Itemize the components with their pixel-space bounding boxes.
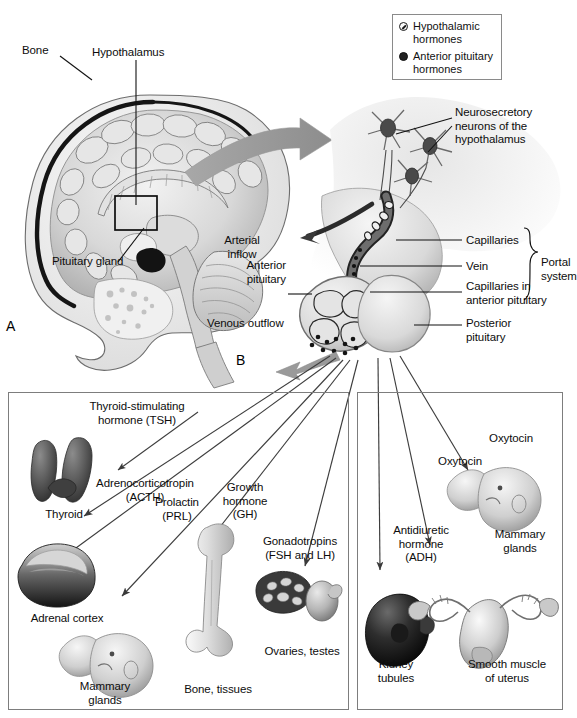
label-arterial-inflow: Arterial inflow xyxy=(211,234,273,261)
venous-outflow-arrow xyxy=(276,352,340,380)
label-adh: Antidiuretic hormone (ADH) xyxy=(381,524,461,565)
label-prl: Prolactin (PRL) xyxy=(145,496,209,523)
legend-label-hypothalamic: Hypothalamic hormones xyxy=(413,20,497,45)
label-kidney-tubules: Kidney tubules xyxy=(363,658,429,685)
label-pituitary-gland: Pituitary gland xyxy=(52,255,123,269)
label-portal-system: Portal system xyxy=(541,256,577,283)
label-neurosecretory-neurons: Neurosecretory neurons of the hypothalam… xyxy=(455,106,532,147)
panel-letter-a: A xyxy=(6,318,15,334)
label-gh: Growth hormone (GH) xyxy=(215,481,275,522)
label-vein: Vein xyxy=(466,260,488,274)
label-tsh: Thyroid-stimulating hormone (TSH) xyxy=(62,400,212,427)
label-capillaries: Capillaries xyxy=(466,234,519,248)
legend-label-anterior-pituitary: Anterior pituitary hormones xyxy=(413,50,497,75)
label-smooth-muscle-uterus: Smooth muscle of uterus xyxy=(452,658,562,685)
label-adrenal-cortex: Adrenal cortex xyxy=(12,612,122,626)
label-bone-tissues: Bone, tissues xyxy=(172,683,264,697)
label-capillaries-anterior-pituitary: Capillaries in anterior pituitary xyxy=(466,280,547,307)
label-mammary-glands-right: Mammary glands xyxy=(481,528,559,555)
panel-letter-b: B xyxy=(236,352,245,368)
label-bone: Bone xyxy=(22,44,48,58)
label-oxytocin-uterus: Oxytocin xyxy=(429,455,491,469)
label-thyroid: Thyroid xyxy=(26,508,102,522)
label-posterior-pituitary: Posterior pituitary xyxy=(466,317,511,344)
anterior-pituitary-hormone-dot-icon xyxy=(399,52,408,61)
hypothalamic-hormone-dot-icon xyxy=(399,22,408,31)
legend-item-anterior-pituitary: Anterior pituitary hormones xyxy=(399,50,497,75)
label-ovaries-testes: Ovaries, testes xyxy=(256,645,348,659)
label-venous-outflow: Venous outflow xyxy=(207,317,284,331)
label-gonadotropins: Gonadotropins (FSH and LH) xyxy=(248,535,352,562)
label-oxytocin-mammary: Oxytocin xyxy=(480,432,542,446)
label-anterior-pituitary: Anterior pituitary xyxy=(206,259,286,286)
legend-item-hypothalamic: Hypothalamic hormones xyxy=(399,20,497,45)
label-hypothalamus: Hypothalamus xyxy=(92,46,164,60)
legend: Hypothalamic hormones Anterior pituitary… xyxy=(392,14,502,80)
label-mammary-glands-left: Mammary glands xyxy=(66,680,144,707)
